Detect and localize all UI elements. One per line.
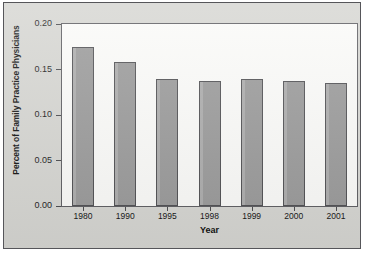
bar-1999 (241, 79, 263, 206)
bar-1980 (72, 47, 94, 206)
x-tick-label-2001: 2001 (316, 211, 356, 221)
y-axis-title: Percent of Family Practice Physicians (11, 15, 21, 185)
x-tick-label-1995: 1995 (147, 211, 187, 221)
x-tick-label-1998: 1998 (190, 211, 230, 221)
y-tick-label: 0.00 (22, 201, 52, 210)
y-tick-mark (56, 206, 61, 207)
y-tick-mark (56, 115, 61, 116)
bar-1998 (199, 81, 221, 206)
x-axis-title: Year (61, 225, 358, 235)
bar-1995 (156, 79, 178, 206)
y-tick-label: 0.20 (22, 19, 52, 28)
x-tick-label-1990: 1990 (105, 211, 145, 221)
y-tick-mark (56, 24, 61, 25)
page-bottom-margin (0, 250, 367, 258)
y-tick-label: 0.05 (22, 156, 52, 165)
y-tick-mark (56, 160, 61, 161)
x-tick-label-2000: 2000 (274, 211, 314, 221)
plot-area (62, 24, 357, 206)
bar-2001 (325, 83, 347, 206)
y-tick-label: 0.10 (22, 110, 52, 119)
chart-figure: 0.000.050.100.150.20 Percent of Family P… (0, 0, 367, 258)
bar-2000 (283, 81, 305, 206)
bar-1990 (114, 62, 136, 206)
y-tick-label: 0.15 (22, 65, 52, 74)
chart-panel: 0.000.050.100.150.20 Percent of Family P… (3, 2, 361, 249)
y-tick-mark (56, 69, 61, 70)
x-tick-label-1980: 1980 (63, 211, 103, 221)
x-tick-label-1999: 1999 (232, 211, 272, 221)
